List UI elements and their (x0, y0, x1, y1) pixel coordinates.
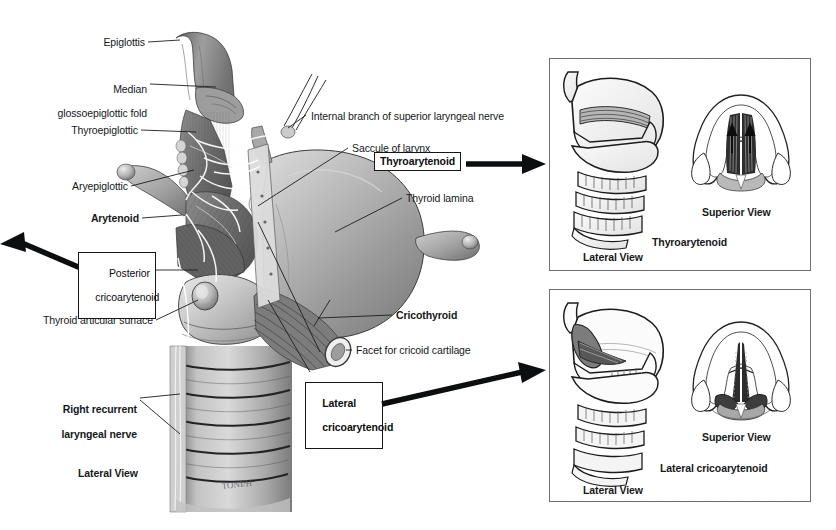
lateral-cricoarytenoid-superior-view-caption: Superior View (702, 431, 771, 443)
label-thyroid-lamina: Thyroid lamina (406, 192, 473, 204)
boxed-label-line-1: Posterior (109, 267, 150, 279)
label-line-2: laryngeal nerve (61, 428, 137, 440)
label-line-2: glossoepiglottic fold (57, 107, 147, 119)
boxed-label-line-2: cricoarytenoid (322, 421, 393, 433)
label-right-recurrent-laryngeal-nerve: Right recurrent laryngeal nerve (20, 390, 137, 453)
label-cricothyroid: Cricothyroid (396, 309, 457, 321)
label-main-lateral-view: Lateral View (78, 467, 138, 479)
thyroarytenoid-superior-view-caption: Superior View (702, 206, 771, 218)
label-arytenoid: Arytenoid (40, 212, 139, 224)
label-line-1: Right recurrent (63, 403, 137, 415)
panel-lateral-cricoarytenoid: Superior View Lateral cricoarytenoid Lat… (549, 289, 811, 502)
figure-canvas: TONI/H (0, 0, 836, 530)
boxed-label-lateral-cricoarytenoid[interactable]: Lateral cricoarytenoid (305, 382, 383, 449)
label-aryepiglottic: Aryepiglottic (16, 180, 128, 192)
label-line-1: Median (113, 83, 147, 95)
lateral-cricoarytenoid-muscle-name: Lateral cricoarytenoid (660, 462, 768, 474)
thyroarytenoid-lateral-view-drawing (556, 64, 674, 252)
label-median-glossoepiglottic-fold: Median glossoepiglottic fold (14, 71, 147, 131)
label-epiglottis: Epiglottis (30, 36, 145, 48)
label-facet-for-cricoid-cartilage: Facet for cricoid cartilage (356, 344, 471, 356)
thyroarytenoid-muscle-name: Thyroarytenoid (652, 236, 727, 248)
lateral-cricoarytenoid-lateral-view-caption: Lateral View (583, 484, 643, 496)
lateral-cricoarytenoid-lateral-view-drawing (556, 295, 674, 485)
boxed-label-line-1: Lateral (322, 397, 356, 409)
boxed-label-posterior-cricoarytenoid[interactable]: Posterior cricoarytenoid (78, 252, 156, 319)
thyroarytenoid-lateral-view-caption: Lateral View (583, 251, 643, 263)
boxed-label-thyroarytenoid[interactable]: Thyroarytenoid (374, 152, 461, 171)
label-thyroepiglottic: Thyroepiglottic (20, 124, 138, 136)
panel-thyroarytenoid: Superior View Thyroarytenoid Lateral Vie… (549, 58, 811, 271)
boxed-label-line-2: cricoarytenoid (95, 291, 159, 303)
label-internal-branch-superior-laryngeal-nerve: Internal branch of superior laryngeal ne… (311, 110, 504, 122)
thyroarytenoid-superior-view-drawing (686, 91, 796, 201)
lateral-cricoarytenoid-superior-view-drawing (686, 318, 796, 428)
